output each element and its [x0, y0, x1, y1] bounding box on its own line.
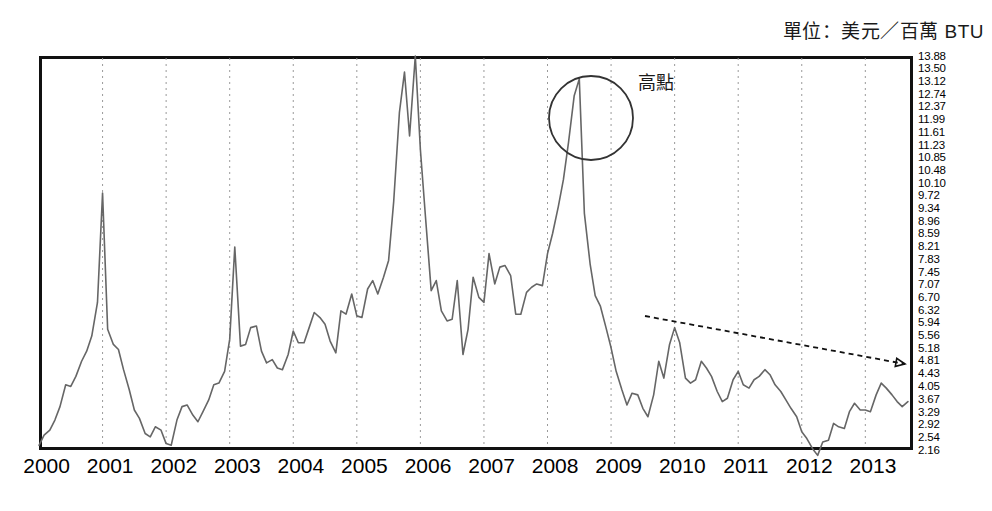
y-tick-5.94: 5.94: [918, 317, 940, 329]
y-tick-4.43: 4.43: [918, 368, 940, 380]
y-tick-13.88: 13.88: [918, 51, 946, 63]
x-tick-2009: 2009: [595, 455, 642, 476]
y-tick-2.16: 2.16: [918, 445, 940, 457]
peak-annotation-label: 高點: [638, 68, 674, 94]
y-tick-3.29: 3.29: [918, 407, 940, 419]
y-tick-8.21: 8.21: [918, 241, 940, 253]
x-tick-2012: 2012: [786, 455, 833, 476]
price-line: [39, 56, 908, 455]
x-tick-2007: 2007: [468, 455, 515, 476]
chart-svg-layer: [0, 0, 992, 511]
y-tick-9.72: 9.72: [918, 190, 940, 202]
y-tick-8.59: 8.59: [918, 228, 940, 240]
y-tick-3.67: 3.67: [918, 394, 940, 406]
y-tick-6.32: 6.32: [918, 305, 940, 317]
y-tick-4.05: 4.05: [918, 381, 940, 393]
x-tick-2001: 2001: [87, 455, 134, 476]
y-tick-7.07: 7.07: [918, 279, 940, 291]
vertical-gridlines: [103, 58, 866, 448]
downtrend-arrow: [645, 316, 905, 364]
y-tick-10.10: 10.10: [918, 178, 946, 190]
y-tick-8.96: 8.96: [918, 216, 940, 228]
x-tick-2006: 2006: [405, 455, 452, 476]
x-tick-2005: 2005: [341, 455, 388, 476]
y-tick-2.54: 2.54: [918, 432, 940, 444]
x-tick-2011: 2011: [723, 455, 768, 476]
y-tick-11.99: 11.99: [918, 114, 945, 126]
y-tick-5.56: 5.56: [918, 330, 940, 342]
y-tick-9.34: 9.34: [918, 203, 940, 215]
y-tick-12.37: 12.37: [918, 101, 946, 113]
y-tick-7.45: 7.45: [918, 267, 940, 279]
x-tick-2003: 2003: [214, 455, 261, 476]
y-tick-11.23: 11.23: [918, 140, 945, 152]
y-tick-13.50: 13.50: [918, 63, 946, 75]
x-tick-2000: 2000: [23, 455, 70, 476]
x-tick-2002: 2002: [150, 455, 197, 476]
x-tick-2008: 2008: [532, 455, 579, 476]
downtrend-arrowhead: [895, 358, 905, 366]
y-tick-7.83: 7.83: [918, 254, 940, 266]
y-tick-10.48: 10.48: [918, 165, 946, 177]
x-tick-2013: 2013: [850, 455, 897, 476]
y-tick-2.92: 2.92: [918, 419, 940, 431]
y-tick-11.61: 11.61: [918, 127, 945, 139]
y-tick-12.74: 12.74: [918, 89, 946, 101]
y-tick-13.12: 13.12: [918, 76, 946, 88]
y-tick-10.85: 10.85: [918, 152, 946, 164]
peak-highlight-circle: [549, 76, 633, 160]
y-tick-4.81: 4.81: [918, 355, 940, 367]
x-tick-2010: 2010: [659, 455, 706, 476]
y-tick-5.18: 5.18: [918, 343, 940, 355]
y-tick-6.70: 6.70: [918, 292, 940, 304]
x-tick-2004: 2004: [278, 455, 325, 476]
